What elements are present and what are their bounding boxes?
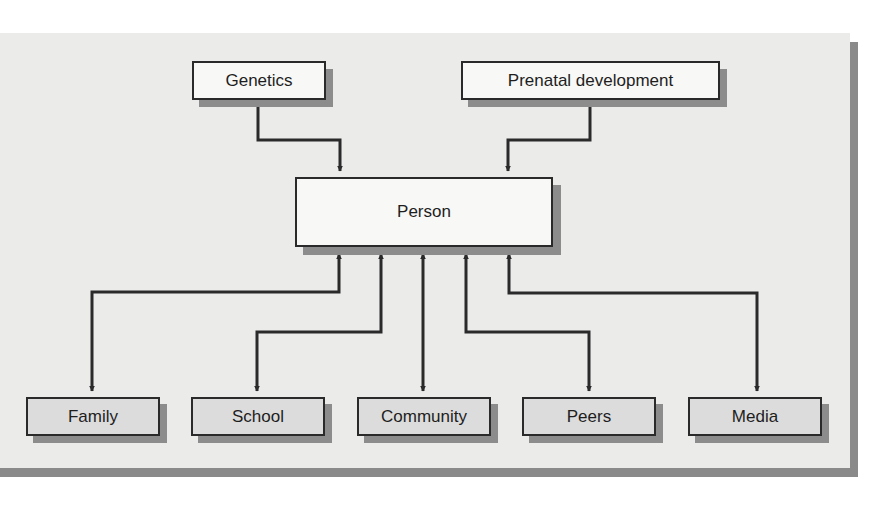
prenatal-development-box: Prenatal development: [461, 61, 720, 100]
arrow-peers-person: [466, 254, 589, 391]
arrow-prenatal-to-person: [508, 100, 590, 171]
family-box: Family: [26, 397, 160, 436]
person-label: Person: [397, 202, 451, 222]
arrow-school-person: [257, 254, 381, 391]
peers-label: Peers: [567, 407, 611, 427]
arrow-family-person: [92, 254, 339, 391]
genetics-label: Genetics: [225, 71, 292, 91]
peers-box: Peers: [522, 397, 656, 436]
family-label: Family: [68, 407, 118, 427]
arrow-media-person: [509, 254, 757, 391]
genetics-box: Genetics: [192, 61, 326, 100]
community-box: Community: [357, 397, 491, 436]
person-box: Person: [295, 177, 553, 247]
media-box: Media: [688, 397, 822, 436]
media-label: Media: [732, 407, 778, 427]
community-label: Community: [381, 407, 467, 427]
school-box: School: [191, 397, 325, 436]
arrow-genetics-to-person: [258, 100, 340, 171]
school-label: School: [232, 407, 284, 427]
prenatal-development-label: Prenatal development: [508, 71, 673, 91]
